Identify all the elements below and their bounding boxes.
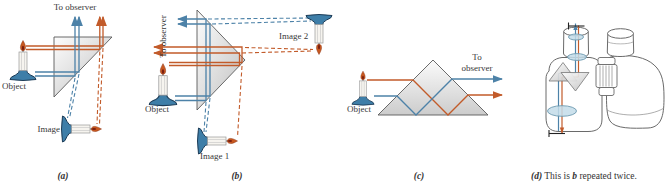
focus-wheel [596, 58, 617, 96]
caption-c: (c) [403, 171, 435, 181]
to-observer-label-a: To observer [38, 2, 112, 12]
panel-d-binoculars [546, 23, 664, 138]
image-label-a: Image [35, 124, 60, 134]
image2-label-b: Image 2 [279, 31, 317, 41]
figure-prisms-total-internal-reflection: To observer Object Image To observer Obj… [0, 0, 667, 190]
figure-canvas [0, 0, 667, 190]
field-lens [568, 54, 587, 61]
image1-label-b: Image 1 [200, 151, 240, 161]
object-candle [352, 71, 374, 105]
panel-a [10, 17, 112, 142]
left-barrel [546, 58, 602, 132]
object-label-a: Object [2, 81, 36, 91]
object-candle [149, 64, 176, 106]
caption-d: (d) This is b repeated twice. [531, 171, 667, 181]
object-label-c: Object [347, 104, 383, 114]
caption-b: (b) [221, 171, 253, 181]
prism-retroreflector [197, 10, 245, 110]
object-label-b: Object [145, 104, 181, 114]
to-observer-label-c: To observer [456, 52, 498, 74]
image-candle [62, 116, 102, 142]
to-observer-label-b: To observer [158, 7, 171, 67]
objective-lens [548, 106, 577, 117]
right-eyepiece-rim [608, 29, 634, 39]
caption-a: (a) [47, 171, 79, 181]
eyepiece-lens [569, 34, 584, 40]
